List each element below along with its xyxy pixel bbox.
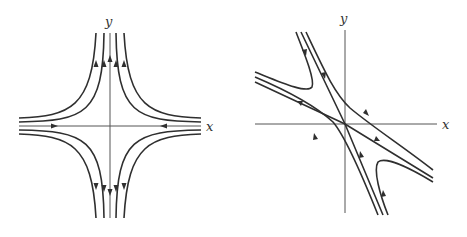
- arrow-down-right-icon: [363, 109, 369, 116]
- arrow-left-icon: [160, 124, 167, 129]
- arrow-down-icon: [108, 189, 113, 196]
- arrow-right-icon: [374, 136, 380, 141]
- arrow-up-icon: [381, 190, 386, 197]
- arrow-up-icon: [108, 55, 113, 62]
- arrow-up-icon: [359, 151, 364, 158]
- arrow-right-icon: [51, 124, 58, 129]
- left-phase-portrait: x y: [0, 0, 233, 237]
- right-phase-portrait-svg: x y: [235, 0, 467, 237]
- right-x-axis-label: x: [442, 117, 450, 132]
- arrow-up-icon: [313, 133, 318, 140]
- left-x-axis-label: x: [206, 119, 214, 134]
- arrow-down-icon: [122, 183, 127, 190]
- arrow-up-icon: [94, 60, 99, 67]
- right-y-axis-label: y: [339, 11, 348, 26]
- right-phase-portrait: x y: [235, 0, 467, 237]
- left-phase-portrait-svg: x y: [0, 0, 233, 237]
- arrow-up-icon: [122, 60, 127, 67]
- arrow-down-icon: [94, 183, 99, 190]
- left-y-axis-label: y: [104, 14, 113, 29]
